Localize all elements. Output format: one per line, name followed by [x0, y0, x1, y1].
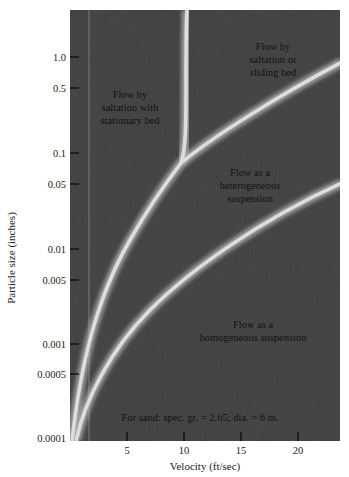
- svg-text:sliding bed: sliding bed: [250, 67, 297, 78]
- y-tick-label: 0.0005: [37, 369, 66, 380]
- svg-text:Flow as a: Flow as a: [233, 319, 274, 330]
- y-tick-label: 0.0001: [37, 433, 66, 444]
- svg-text:stationary bed: stationary bed: [100, 115, 160, 126]
- region-sliding-bed: Flow by saltation or sliding bed: [250, 41, 297, 78]
- svg-text:Flow by: Flow by: [256, 41, 291, 52]
- y-tick-label: 1.0: [53, 52, 66, 63]
- y-axis-title: Particle size (inches): [5, 212, 18, 304]
- y-tick-label: 0.5: [53, 83, 66, 94]
- svg-text:suspension: suspension: [227, 193, 274, 204]
- x-tick-labels: 5 10 15 20: [124, 445, 303, 456]
- y-tick-label: 0.005: [42, 275, 66, 286]
- sand-properties-note: For sand: spec. gr. = 2.65; dia. = 6 in.: [121, 412, 278, 423]
- y-tick-label: 0.05: [48, 179, 66, 190]
- x-tick-label: 5: [124, 445, 129, 456]
- x-axis-title: Velocity (ft/sec): [170, 460, 241, 473]
- svg-text:Flow by: Flow by: [113, 89, 148, 100]
- y-tick-label: 0.001: [42, 339, 66, 350]
- x-tick-label: 10: [179, 445, 190, 456]
- y-tick-labels: 1.0 0.5 0.1 0.05 0.01 0.005 0.001 0.0005…: [37, 52, 66, 444]
- svg-text:saltation or: saltation or: [250, 54, 297, 65]
- plot-texture: [70, 10, 340, 441]
- svg-text:heterogeneous: heterogeneous: [220, 180, 281, 191]
- svg-text:Flow as a: Flow as a: [230, 167, 271, 178]
- flow-regime-chart: 1.0 0.5 0.1 0.05 0.01 0.005 0.001 0.0005…: [0, 0, 349, 477]
- x-tick-label: 20: [293, 445, 304, 456]
- y-tick-label: 0.1: [53, 148, 66, 159]
- svg-text:saltation with: saltation with: [102, 102, 160, 113]
- svg-text:homogeneous suspension: homogeneous suspension: [199, 332, 307, 343]
- y-tick-label: 0.01: [48, 244, 66, 255]
- x-tick-label: 15: [236, 445, 247, 456]
